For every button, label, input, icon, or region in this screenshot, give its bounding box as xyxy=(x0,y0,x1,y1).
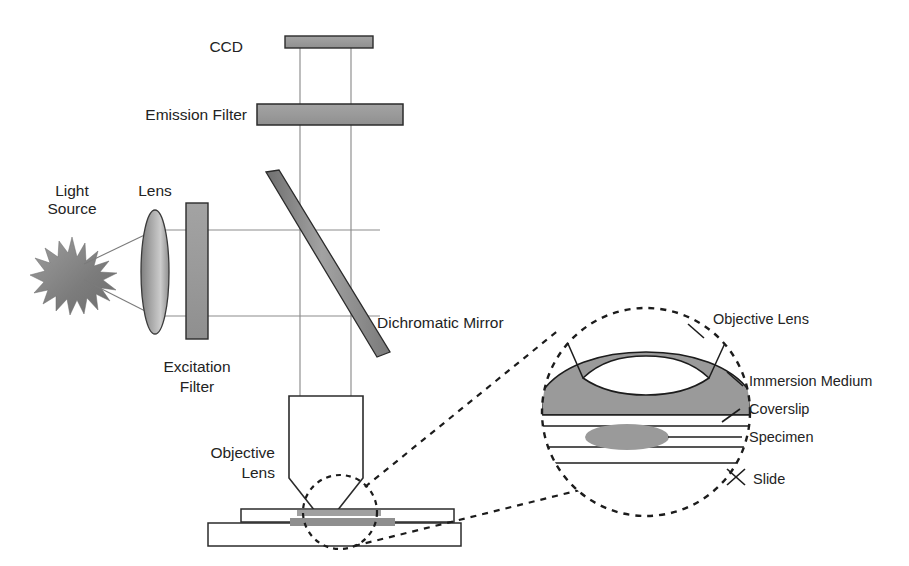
dichromatic-mirror-label: Dichromatic Mirror xyxy=(377,314,504,331)
objective-lens-body xyxy=(289,396,363,511)
inset-coverslip-layer xyxy=(540,415,755,421)
microscope-schematic: CCD Emission Filter Dichromatic Mirror L… xyxy=(0,0,909,566)
inset-slide-label: Slide xyxy=(753,471,785,487)
inset-immersion-medium-label: Immersion Medium xyxy=(749,373,872,389)
collector-lens xyxy=(141,210,169,334)
diagram-canvas: CCD Emission Filter Dichromatic Mirror L… xyxy=(0,0,909,566)
excitation-filter-label-line2: Filter xyxy=(180,378,214,395)
inset-coverslip-label: Coverslip xyxy=(749,401,809,417)
ccd-detector xyxy=(285,36,373,48)
inset-specimen-blob xyxy=(585,424,669,450)
emission-filter-label: Emission Filter xyxy=(145,106,247,123)
light-source-label-line2: Source xyxy=(47,200,96,217)
lens-label: Lens xyxy=(138,182,172,199)
connector-upper xyxy=(365,329,560,487)
excitation-filter xyxy=(186,203,208,339)
objective-lens-label-line2: Lens xyxy=(241,464,275,481)
inset-objective-lens-label: Objective Lens xyxy=(713,311,809,327)
excitation-filter-label-line1: Excitation xyxy=(163,358,230,375)
light-source xyxy=(30,237,117,315)
magnifier-inset xyxy=(540,305,755,520)
ccd-label: CCD xyxy=(209,38,243,55)
slide xyxy=(208,523,461,546)
objective-lens-label-line1: Objective xyxy=(210,444,275,461)
emission-filter xyxy=(257,104,403,125)
dichromatic-mirror xyxy=(266,170,390,357)
inset-specimen-label: Specimen xyxy=(749,429,813,445)
light-source-label-line1: Light xyxy=(55,182,89,199)
